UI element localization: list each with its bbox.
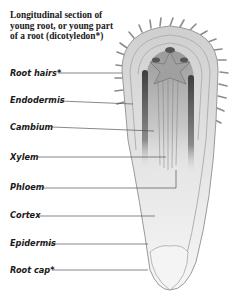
label-cambium: Cambium <box>10 122 53 132</box>
label-endodermis: Endodermis <box>10 95 65 105</box>
label-root-cap: Root cap* <box>10 265 54 275</box>
label-cortex: Cortex <box>10 210 40 220</box>
vascular-strand-left <box>142 70 148 170</box>
vascular-strand-right <box>188 75 194 175</box>
root-illustration <box>0 0 237 294</box>
label-root-hairs: Root hairs* <box>10 68 61 78</box>
label-epidermis: Epidermis <box>10 238 56 248</box>
label-xylem: Xylem <box>10 152 39 162</box>
root-section-diagram: Longitudinal section of young root, or y… <box>0 0 237 294</box>
label-phloem: Phloem <box>10 182 44 192</box>
